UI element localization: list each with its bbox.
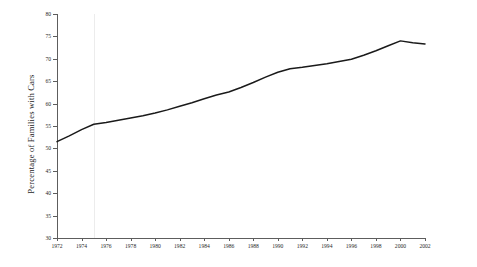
- x-tick: [106, 238, 107, 241]
- x-tick: [229, 238, 230, 241]
- x-tick: [180, 238, 181, 241]
- x-tick: [131, 238, 132, 241]
- x-tick: [351, 238, 352, 241]
- x-tick: [204, 238, 205, 241]
- y-tick-label: 75: [45, 33, 51, 39]
- x-tick-label: 2002: [419, 243, 430, 249]
- y-tick-label: 35: [45, 213, 51, 219]
- y-tick-label: 30: [45, 235, 51, 241]
- x-tick-label: 1994: [321, 243, 332, 249]
- data-line-series: [57, 14, 425, 238]
- x-tick: [376, 238, 377, 241]
- y-tick-label: 45: [45, 168, 51, 174]
- x-tick-label: 1992: [297, 243, 308, 249]
- x-tick: [425, 238, 426, 241]
- y-tick-label: 65: [45, 78, 51, 84]
- series-line: [57, 41, 425, 142]
- plot-area: 3035404550556065707580 19721974197619781…: [57, 14, 425, 238]
- x-tick: [302, 238, 303, 241]
- x-tick-label: 1996: [346, 243, 357, 249]
- y-tick-label: 60: [45, 101, 51, 107]
- chart-container: Percentage of Families with Cars 3035404…: [0, 0, 477, 267]
- y-tick-label: 55: [45, 123, 51, 129]
- x-tick-label: 1974: [76, 243, 87, 249]
- x-tick-label: 1998: [370, 243, 381, 249]
- x-tick-label: 1984: [199, 243, 210, 249]
- y-tick-label: 80: [45, 11, 51, 17]
- x-tick-label: 1988: [248, 243, 259, 249]
- x-tick: [400, 238, 401, 241]
- x-tick: [57, 238, 58, 241]
- y-tick-label: 40: [45, 190, 51, 196]
- x-tick-label: 1986: [223, 243, 234, 249]
- y-tick-label: 50: [45, 145, 51, 151]
- x-tick: [327, 238, 328, 241]
- x-tick-label: 2000: [395, 243, 406, 249]
- x-tick-label: 1976: [100, 243, 111, 249]
- x-tick-label: 1990: [272, 243, 283, 249]
- x-tick: [155, 238, 156, 241]
- x-axis-line: [57, 238, 425, 239]
- x-tick-label: 1972: [51, 243, 62, 249]
- x-tick: [253, 238, 254, 241]
- y-axis-title: Percentage of Families with Cars: [26, 39, 36, 229]
- x-tick: [82, 238, 83, 241]
- x-tick-label: 1982: [174, 243, 185, 249]
- x-tick: [278, 238, 279, 241]
- y-tick-label: 70: [45, 56, 51, 62]
- x-tick-label: 1978: [125, 243, 136, 249]
- x-tick-label: 1980: [150, 243, 161, 249]
